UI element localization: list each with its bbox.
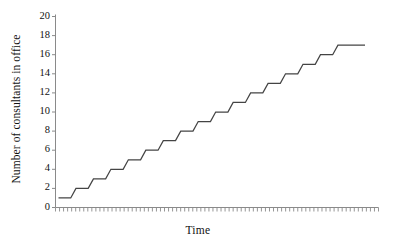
x-axis-ticks — [56, 208, 379, 212]
data-series-line — [59, 45, 366, 198]
chart-figure: Number of consultants in office Time 024… — [0, 0, 396, 247]
plot-area — [0, 0, 396, 247]
y-axis-ticks — [52, 17, 56, 208]
